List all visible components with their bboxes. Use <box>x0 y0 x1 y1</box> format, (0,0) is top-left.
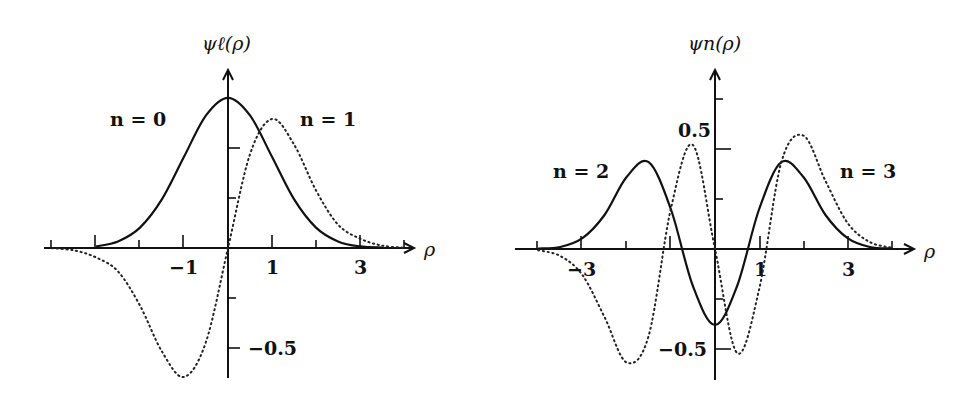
left-x-tick-label-1: 1 <box>266 256 279 278</box>
right-y-tick-label-05: 0.5 <box>678 119 711 141</box>
label-n2: n = 2 <box>553 160 609 182</box>
figure: ψℓ(ρ) ρ −1 1 3 −0.5 n = 0 n <box>0 0 980 409</box>
right-x-tick-label-3: 3 <box>842 258 855 280</box>
right-y-ticks <box>715 99 731 349</box>
left-x-axis-label: ρ <box>423 238 436 260</box>
right-plot: ψn(ρ) ρ −3 1 3 0.5 −0.5 n = 2 n = 3 <box>515 32 936 380</box>
right-y-axis-title: ψn(ρ) <box>688 32 741 54</box>
left-y-axis-title: ψℓ(ρ) <box>202 32 251 54</box>
right-x-tick-label-minus3: −3 <box>567 258 596 280</box>
left-y-tick-label-minus05: −0.5 <box>248 337 297 359</box>
label-n3: n = 3 <box>840 160 896 182</box>
left-x-tick-label-3: 3 <box>354 256 367 278</box>
label-n0: n = 0 <box>110 108 166 130</box>
label-n1: n = 1 <box>300 108 356 130</box>
right-x-axis-label: ρ <box>923 240 936 262</box>
left-plot: ψℓ(ρ) ρ −1 1 3 −0.5 n = 0 n <box>44 32 436 378</box>
right-y-tick-label-minus05: −0.5 <box>658 338 707 360</box>
left-x-tick-label-minus1: −1 <box>169 256 198 278</box>
